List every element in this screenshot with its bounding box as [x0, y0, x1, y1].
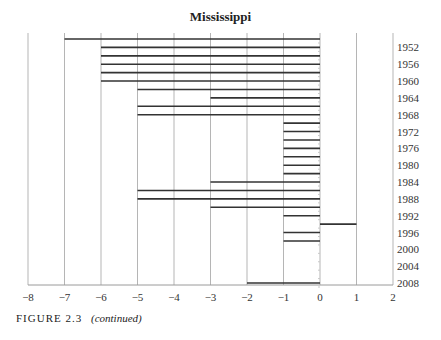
- y-tick-label: 1964: [397, 92, 420, 104]
- y-tick-label: 1996: [397, 227, 420, 239]
- x-tick-label: −3: [205, 291, 217, 303]
- x-tick-label: −6: [95, 291, 107, 303]
- y-tick-label: 1972: [397, 126, 419, 138]
- y-tick-label: 1968: [397, 109, 420, 121]
- x-tick-label: 1: [354, 291, 360, 303]
- x-tick-label: 2: [390, 291, 396, 303]
- x-tick-label: 0: [317, 291, 323, 303]
- x-tick-label: −7: [59, 291, 71, 303]
- y-tick-label: 1984: [397, 176, 420, 188]
- y-tick-label: 1976: [397, 142, 420, 154]
- y-tick-label: 2000: [397, 243, 420, 255]
- x-tick-label: −2: [241, 291, 253, 303]
- y-tick-label: 2004: [397, 260, 420, 272]
- y-tick-label: 1992: [397, 210, 419, 222]
- x-tick-label: −5: [132, 291, 144, 303]
- y-tick-label: 1980: [397, 159, 420, 171]
- figure-caption: FIGURE 2.3 (continued): [16, 312, 142, 324]
- y-tick-label: 1956: [397, 58, 420, 70]
- y-tick-label: 1952: [397, 41, 419, 53]
- bar-chart: −8−7−6−5−4−3−2−1012195219561960196419681…: [0, 0, 441, 340]
- x-tick-label: −8: [22, 291, 34, 303]
- x-tick-label: −1: [278, 291, 290, 303]
- figure-note: (continued): [91, 312, 142, 324]
- y-tick-label: 1960: [397, 75, 420, 87]
- y-tick-label: 1988: [397, 193, 420, 205]
- x-tick-label: −4: [168, 291, 180, 303]
- y-tick-label: 2008: [397, 277, 420, 289]
- figure-label: FIGURE 2.3: [16, 312, 82, 324]
